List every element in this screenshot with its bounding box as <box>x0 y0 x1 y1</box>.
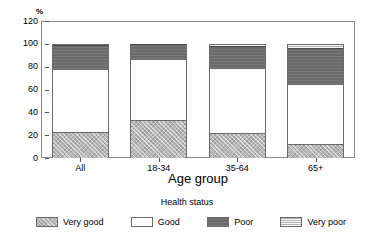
bar-segment-verygood <box>131 120 186 158</box>
legend-title: Health status <box>0 197 374 207</box>
bar-segment-poor <box>288 48 343 83</box>
bar-segment-good <box>53 69 108 132</box>
legend-item-label: Very poor <box>307 217 346 227</box>
legend-item-label: Poor <box>234 217 253 227</box>
bar-segment-verygood <box>53 132 108 158</box>
y-axis-tick-label: 40 <box>12 108 38 117</box>
legend-item-label: Very good <box>63 217 104 227</box>
bar-35-64 <box>209 44 266 158</box>
bar-segment-poor <box>53 45 108 69</box>
legend-item-verypoor[interactable]: Very poor <box>280 217 346 227</box>
y-axis-tick-label: 60 <box>12 85 38 94</box>
bar-segment-poor <box>210 46 265 68</box>
y-axis-tick-label: 0 <box>12 154 38 163</box>
y-axis-tick-label: 80 <box>12 62 38 71</box>
y-axis-tick-label: 20 <box>12 131 38 140</box>
bar-segment-good <box>210 68 265 133</box>
bar-65- <box>287 44 344 158</box>
bar-segment-good <box>288 84 343 145</box>
legend-item-verygood[interactable]: Very good <box>36 217 104 227</box>
bar-all <box>52 44 109 158</box>
y-axis-tick-label: 100 <box>12 39 38 48</box>
legend-item-good[interactable]: Good <box>131 217 180 227</box>
y-axis-tick-label: 120 <box>12 17 38 26</box>
x-axis-tick-mark <box>159 158 160 162</box>
x-axis-title: Age group <box>41 172 355 186</box>
bar-segment-verygood <box>210 133 265 158</box>
stacked-bar-chart: % 120100806040200 All18-3435-6465+ Age g… <box>0 0 374 241</box>
legend-swatch-good-icon <box>131 217 153 227</box>
legend-swatch-verypoor-icon <box>280 217 302 227</box>
x-axis-tick-mark <box>80 158 81 162</box>
bar-18-34 <box>130 44 187 158</box>
bar-segment-poor <box>131 44 186 59</box>
legend-item-poor[interactable]: Poor <box>207 217 253 227</box>
bars-layer <box>41 21 355 158</box>
bar-segment-verygood <box>288 144 343 158</box>
legend-swatch-verygood-icon <box>36 217 58 227</box>
x-axis-tick-mark <box>316 158 317 162</box>
x-axis-tick-mark <box>237 158 238 162</box>
legend-item-label: Good <box>158 217 180 227</box>
bar-segment-good <box>131 59 186 121</box>
legend: Very goodGoodPoorVery poor <box>36 214 346 230</box>
legend-swatch-poor-icon <box>207 217 229 227</box>
